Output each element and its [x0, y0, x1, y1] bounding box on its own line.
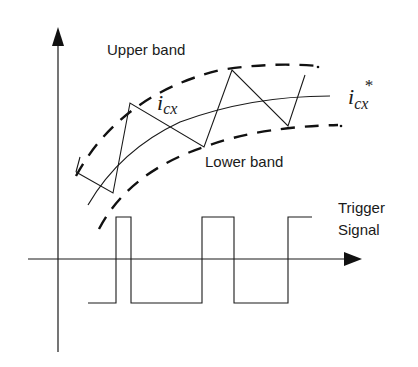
trigger-label-line1: Trigger: [338, 199, 385, 216]
reference-current-curve: [88, 96, 330, 205]
y-axis-arrow-icon: [52, 27, 64, 46]
hysteresis-diagram: Upper band Lower band icx icx * Trigger …: [0, 0, 418, 367]
upper-band-end-dot: [317, 66, 320, 69]
upper-band-label: Upper band: [107, 41, 185, 58]
trigger-label-line2: Signal: [338, 221, 380, 238]
lower-band-end-dot: [340, 125, 343, 128]
reference-current-star: *: [364, 76, 373, 95]
lower-band-label: Lower band: [205, 153, 283, 170]
lower-band-curve: [99, 125, 338, 229]
actual-current-label: icx: [157, 90, 177, 117]
x-axis-arrow-icon: [344, 252, 362, 266]
trigger-signal-waveform: [88, 217, 312, 303]
